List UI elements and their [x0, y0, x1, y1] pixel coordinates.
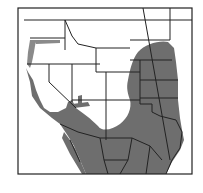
- range-map: [0, 0, 203, 193]
